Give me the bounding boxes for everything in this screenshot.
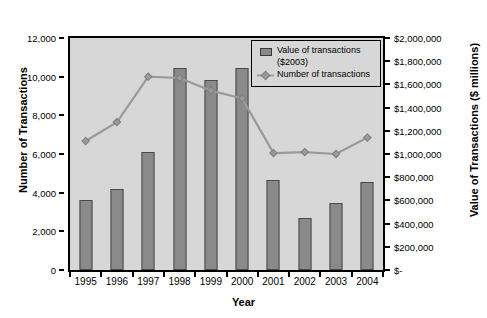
legend-item-value: Value of transactions — [257, 45, 376, 57]
y-axis-right-tick — [385, 37, 390, 39]
y-axis-right-tick-label: $- — [394, 265, 402, 276]
y-axis-right-tick-label: $200,000 — [394, 241, 434, 252]
x-axis-tick-label: 2002 — [294, 276, 316, 287]
chart-container: 02,0004,0006,0008,00010,00012,000 Number… — [0, 0, 487, 318]
legend-label-value: Value of transactions — [277, 45, 360, 56]
y-axis-left-tick-label: 2,000 — [32, 226, 56, 237]
y-axis-left-title: Number of Transactions — [17, 15, 29, 245]
line-marker — [301, 148, 308, 155]
y-axis-left-tick — [59, 269, 64, 271]
legend-marker-line-icon — [257, 70, 274, 81]
y-axis-left-tick — [59, 153, 64, 155]
y-axis-right-tick-label: $1,000,000 — [394, 149, 442, 160]
x-axis-tick-label: 2004 — [356, 276, 378, 287]
y-axis-left-tick — [59, 114, 64, 116]
legend-label-number: Number of transactions — [277, 69, 370, 80]
y-axis-right-tick — [385, 176, 390, 178]
y-axis-left-tick-label: 8,000 — [32, 110, 56, 121]
y-axis-left-tick — [59, 37, 64, 39]
line-marker — [207, 87, 214, 94]
y-axis-left-tick — [59, 192, 64, 194]
y-axis-left-tick-label: 12,000 — [27, 33, 56, 44]
y-axis-right-title: Value of Transactions ($ millions) — [468, 15, 480, 245]
y-axis-right-tick — [385, 60, 390, 62]
y-axis-right-tick-label: $600,000 — [394, 195, 434, 206]
x-axis-labels: 1995199619971998199920002001200220032004 — [68, 276, 385, 292]
y-axis-left-tick — [59, 230, 64, 232]
y-axis-right-tick — [385, 223, 390, 225]
y-axis-right-tick — [385, 199, 390, 201]
x-axis-tick-label: 2000 — [231, 276, 253, 287]
line-path — [86, 77, 368, 154]
y-axis-left-tick-label: 10,000 — [27, 71, 56, 82]
legend-swatch-bar-icon — [257, 46, 274, 57]
y-axis-right-tick-label: $800,000 — [394, 172, 434, 183]
y-axis-right-tick — [385, 153, 390, 155]
x-axis-title: Year — [0, 296, 487, 308]
y-axis-right-labels: $-$200,000$400,000$600,000$800,000$1,000… — [385, 36, 457, 272]
x-axis-tick-label: 2003 — [325, 276, 347, 287]
y-axis-left-tick-label: 0 — [51, 265, 56, 276]
y-axis-left-tick-label: 6,000 — [32, 149, 56, 160]
y-axis-right-tick — [385, 269, 390, 271]
y-axis-right-tick — [385, 107, 390, 109]
y-axis-right-tick-label: $1,200,000 — [394, 125, 442, 136]
x-axis-tick-label: 1995 — [75, 276, 97, 287]
y-axis-left-tick-label: 4,000 — [32, 187, 56, 198]
y-axis-left-tick — [59, 76, 64, 78]
x-axis-tick-label: 1996 — [106, 276, 128, 287]
x-axis-tick-label: 2001 — [262, 276, 284, 287]
y-axis-right-tick-label: $1,600,000 — [394, 79, 442, 90]
chart-legend: Value of transactions ($2003) Number of … — [251, 40, 381, 87]
x-axis-tick-label: 1998 — [168, 276, 190, 287]
legend-label-value-sub: ($2003) — [257, 57, 376, 68]
y-axis-right-tick-label: $400,000 — [394, 218, 434, 229]
y-axis-left-labels: 02,0004,0006,0008,00010,00012,000 — [0, 36, 64, 272]
legend-item-number: Number of transactions — [257, 69, 376, 81]
x-axis-tick-label: 1999 — [200, 276, 222, 287]
y-axis-right-tick-label: $2,000,000 — [394, 33, 442, 44]
y-axis-right-tick-label: $1,800,000 — [394, 56, 442, 67]
line-marker — [176, 74, 183, 81]
y-axis-right-tick — [385, 83, 390, 85]
x-axis-tick-label: 1997 — [137, 276, 159, 287]
y-axis-right-tick — [385, 246, 390, 248]
y-axis-right-tick — [385, 130, 390, 132]
y-axis-right-tick-label: $1,400,000 — [394, 102, 442, 113]
